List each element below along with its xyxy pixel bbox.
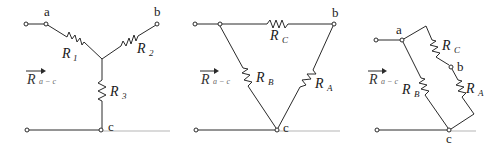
circuit-figure: a b c R 1 R 2 R 3 R a − c bbox=[0, 0, 503, 148]
rc-label: R C bbox=[441, 38, 461, 55]
rb-label: R B bbox=[401, 82, 420, 99]
terminal-left-bottom bbox=[375, 128, 379, 132]
resistor-ra bbox=[456, 80, 466, 97]
svg-text:B: B bbox=[414, 89, 420, 99]
node-c bbox=[99, 128, 103, 132]
terminal-left-bottom bbox=[194, 128, 198, 132]
svg-text:a − c: a − c bbox=[381, 77, 398, 86]
node-a bbox=[400, 38, 404, 42]
svg-text:C: C bbox=[454, 45, 461, 55]
delta-circuit: b c R C R B R A R a − c bbox=[193, 5, 340, 135]
node-b-label: b bbox=[154, 4, 161, 19]
ra-label: R A bbox=[314, 76, 333, 93]
node-c bbox=[275, 128, 279, 132]
arrow-right-icon bbox=[382, 68, 387, 74]
svg-text:R: R bbox=[465, 81, 475, 96]
node-c-label: c bbox=[446, 131, 452, 146]
node-a bbox=[44, 22, 48, 26]
resistor-rb bbox=[419, 78, 429, 95]
svg-text:R: R bbox=[200, 72, 210, 87]
resistor-rb bbox=[242, 68, 252, 86]
svg-text:R: R bbox=[441, 38, 451, 53]
svg-text:R: R bbox=[401, 82, 411, 97]
node-c-label: c bbox=[283, 120, 289, 135]
measurement-arrow-label: R a − c bbox=[26, 68, 56, 87]
node-b-label: b bbox=[457, 59, 464, 74]
terminal-left-top bbox=[24, 22, 28, 26]
node-c-label: c bbox=[108, 119, 114, 134]
measurement-arrow-label: R a − c bbox=[200, 68, 230, 87]
svg-text:R: R bbox=[136, 41, 146, 56]
svg-text:B: B bbox=[268, 77, 274, 87]
resistor-rc bbox=[267, 20, 288, 28]
node-a-label: a bbox=[44, 4, 50, 19]
svg-text:R: R bbox=[109, 84, 119, 99]
node-b bbox=[449, 65, 453, 69]
svg-text:R: R bbox=[61, 46, 71, 61]
svg-text:A: A bbox=[326, 83, 333, 93]
svg-text:2: 2 bbox=[149, 48, 154, 58]
svg-text:1: 1 bbox=[73, 53, 78, 63]
svg-text:C: C bbox=[282, 35, 289, 45]
terminal-left-top bbox=[374, 38, 378, 42]
node-b bbox=[332, 22, 336, 26]
resistor-r2 bbox=[121, 35, 138, 46]
arrow-right-icon bbox=[41, 68, 46, 74]
r1-label: R 1 bbox=[61, 46, 78, 63]
terminal-left-top bbox=[193, 22, 197, 26]
node-a-label: a bbox=[396, 22, 402, 37]
resistor-r1 bbox=[67, 32, 84, 45]
svg-text:R: R bbox=[255, 70, 265, 85]
measurement-arrow-label: R a − c bbox=[368, 68, 398, 87]
svg-text:a − c: a − c bbox=[213, 77, 230, 86]
terminal-left-bottom bbox=[25, 128, 29, 132]
svg-text:R: R bbox=[269, 28, 279, 43]
r3-label: R 3 bbox=[109, 84, 127, 101]
svg-text:R: R bbox=[368, 72, 378, 87]
svg-text:A: A bbox=[477, 88, 484, 98]
rc-label: R C bbox=[269, 28, 289, 45]
arrow-right-icon bbox=[214, 68, 219, 74]
node-a bbox=[218, 22, 222, 26]
node-b bbox=[155, 22, 159, 26]
resistor-rc bbox=[430, 40, 440, 57]
node-b-label: b bbox=[332, 5, 339, 20]
svg-text:R: R bbox=[26, 72, 36, 87]
resistor-ra bbox=[300, 70, 316, 87]
svg-text:R: R bbox=[314, 76, 324, 91]
rb-label: R B bbox=[255, 70, 274, 87]
wye-circuit: a b c R 1 R 2 R 3 R a − c bbox=[24, 4, 170, 134]
resistor-r3 bbox=[98, 80, 106, 101]
svg-text:3: 3 bbox=[121, 91, 127, 101]
delta-redrawn-circuit: a b c R C R B R A R a − c bbox=[368, 22, 484, 146]
ra-label: R A bbox=[465, 81, 484, 98]
r2-label: R 2 bbox=[136, 41, 154, 58]
svg-text:a − c: a − c bbox=[39, 77, 56, 86]
